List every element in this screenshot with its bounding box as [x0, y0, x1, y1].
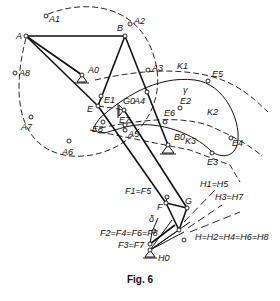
- joint-e6: [163, 120, 167, 124]
- label-h1h5: H1=H5: [200, 179, 229, 189]
- label-e5: E5: [212, 69, 224, 79]
- joint-a5: [123, 128, 127, 132]
- label-a1: A1: [48, 14, 60, 24]
- label-a5: A5: [127, 129, 140, 139]
- figure-caption: Fig. 6: [127, 274, 154, 285]
- ray-h3: [188, 205, 222, 228]
- joint-a: [24, 34, 28, 38]
- label-a3: A3: [151, 63, 163, 73]
- label-a7: A7: [20, 122, 33, 132]
- ray-h: [190, 212, 240, 232]
- label-k3: K3: [185, 136, 196, 146]
- label-h0: H0: [158, 253, 170, 263]
- label-f: F: [157, 202, 163, 212]
- joint-a6: [67, 139, 71, 143]
- joint-a2: [128, 22, 132, 26]
- label-e3: E3: [207, 157, 218, 167]
- label-a0: A0: [87, 65, 99, 75]
- joint-a1: [44, 14, 48, 18]
- joint-h0: [148, 248, 152, 252]
- joint-f1: [165, 195, 169, 199]
- label-e1: E1: [104, 95, 115, 105]
- joint-a8: [13, 71, 17, 75]
- link-a-a0: [26, 36, 82, 75]
- label-e6: E6: [164, 108, 175, 118]
- label-e2: E2: [180, 96, 191, 106]
- label-k2: K2: [207, 107, 218, 117]
- joint-e3: [210, 151, 214, 155]
- label-f3f7: F3=F7: [118, 240, 145, 250]
- joint-a7: [29, 115, 33, 119]
- joint-e2: [178, 106, 182, 110]
- label-a: A: [15, 31, 22, 41]
- joint-b0: [166, 143, 170, 147]
- joint-a3: [146, 68, 150, 72]
- label-b: B: [117, 23, 123, 33]
- label-g: G: [185, 196, 192, 206]
- label-e8: E8: [92, 124, 103, 134]
- ray-h1: [184, 190, 215, 222]
- joint-f: [164, 201, 168, 205]
- joint-e5: [206, 79, 210, 83]
- label-e4: E4: [232, 138, 243, 148]
- joint-g: [185, 206, 189, 210]
- joint-h: [177, 228, 181, 232]
- joint-h-chain: [182, 238, 186, 242]
- label-b0: B0: [174, 132, 185, 142]
- joint-e1: [99, 94, 103, 98]
- label-e7: E7: [119, 115, 131, 125]
- label-a8: A8: [18, 68, 30, 78]
- label-gamma: γ: [183, 85, 188, 95]
- joint-a4: [145, 90, 149, 94]
- joint-b: [123, 34, 127, 38]
- joint-f3: [148, 242, 152, 246]
- joint-a0: [80, 73, 84, 77]
- label-a2: A2: [133, 16, 145, 26]
- label-k1: K1: [177, 61, 188, 71]
- label-e: E: [87, 104, 94, 114]
- linkage-mechanism-diagram: A A1 B A2 A3 K1 A8 A0 E5 γ E1 G0 A4 E2 K…: [0, 0, 280, 301]
- label-h3h7: H3=H7: [215, 192, 244, 202]
- label-a6: A6: [61, 147, 73, 157]
- label-a4: A4: [133, 96, 145, 106]
- joint-e: [96, 104, 100, 108]
- label-delta: δ: [149, 214, 155, 224]
- joint-g0: [122, 108, 126, 112]
- label-f1f5: F1=F5: [125, 186, 152, 196]
- label-h-chain: H=H2=H4=H6=H8: [195, 232, 269, 242]
- label-f2f4f6f8: F2=F4=F6=F8: [100, 228, 158, 238]
